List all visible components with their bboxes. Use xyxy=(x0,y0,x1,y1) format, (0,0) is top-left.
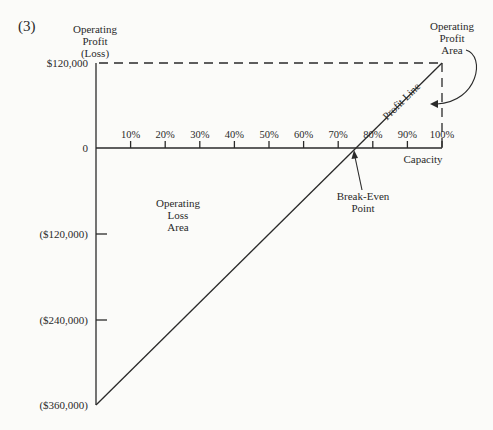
profit-area-label-line3: Area xyxy=(441,44,462,56)
loss-area-label-line2: Loss xyxy=(168,209,189,221)
x-axis-title: Capacity xyxy=(403,153,443,165)
y-tick-label: 0 xyxy=(83,142,89,154)
y-tick-label: ($360,000) xyxy=(39,399,88,412)
profit-area-label-line2: Profit xyxy=(439,32,464,44)
x-tick-label: 40% xyxy=(225,129,245,140)
x-tick-label: 70% xyxy=(329,129,349,140)
profit-area-label-line1: Operating xyxy=(430,20,474,32)
figure-label: (3) xyxy=(18,18,36,35)
x-tick-label: 100% xyxy=(430,129,455,140)
loss-area-label-line3: Area xyxy=(167,221,188,233)
x-tick-label: 20% xyxy=(156,129,176,140)
y-tick-label: ($240,000) xyxy=(39,314,88,327)
break-even-label-line1: Break-Even xyxy=(337,190,390,202)
profit-area-curved-arrow xyxy=(437,50,476,104)
x-tick-label: 60% xyxy=(294,129,314,140)
loss-area-label-line1: Operating xyxy=(156,197,200,209)
break-even-label-line2: Point xyxy=(351,202,374,214)
break-even-pointer xyxy=(355,157,362,190)
profit-line-label: Profit Line xyxy=(380,80,423,122)
y-tick-label: ($120,000) xyxy=(39,228,88,241)
y-tick-label: $120,000 xyxy=(47,57,89,69)
y-axis-title-line2: Profit xyxy=(82,35,107,47)
x-tick-label: 50% xyxy=(259,129,279,140)
y-axis-title-line1: Operating xyxy=(73,23,117,35)
break-even-chart: (3) Operating Profit (Loss) $120,000 0 (… xyxy=(0,0,493,430)
x-tick-label: 10% xyxy=(121,129,141,140)
x-tick-label: 90% xyxy=(398,129,418,140)
x-tick-label: 30% xyxy=(190,129,210,140)
x-ticks xyxy=(131,141,442,148)
arrowhead-icon xyxy=(430,100,438,108)
